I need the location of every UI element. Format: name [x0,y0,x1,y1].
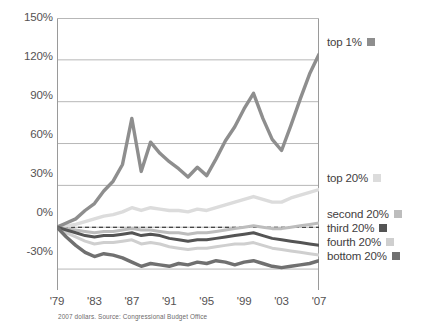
legend-item-label: second 20% [327,208,389,220]
legend-item-label: third 20% [327,222,374,234]
x-axis-labels: '79'83'87'91'95'99'03'07 [57,295,327,311]
legend-color-swatch [392,252,400,260]
series-line-top20 [57,190,319,228]
x-axis-tick-label: '07 [312,295,327,307]
legend-item[interactable]: second 20% [327,208,402,220]
y-axis-tick-label: 120% [3,51,53,62]
y-axis-tick-label: 60% [3,129,53,140]
x-axis-tick-label: '03 [274,295,289,307]
y-axis-tick-label: 90% [3,90,53,101]
legend-item[interactable]: fourth 20% [327,236,394,248]
x-axis-tick-label: '79 [50,295,65,307]
legend-color-swatch [394,210,402,218]
legend-color-swatch [386,238,394,246]
chart-container: 150%120%90%60%30%0%-30% '79'83'87'91'95'… [0,0,435,335]
legend-item[interactable]: bottom 20% [327,250,400,262]
legend-item[interactable]: third 20% [327,222,387,234]
legend-color-swatch [373,174,381,182]
y-axis-tick-label: 150% [3,12,53,23]
legend-item-label: top 1% [327,36,362,48]
legend-item[interactable]: top 20% [327,172,381,184]
series-line-second20 [57,223,319,234]
plot-svg [57,18,319,290]
data-series-group [57,54,319,267]
plot-area [57,18,319,290]
x-axis-tick-label: '95 [199,295,214,307]
legend-item[interactable]: top 1% [327,36,375,48]
x-axis-tick-label: '87 [125,295,140,307]
x-axis-tick-label: '99 [237,295,252,307]
x-axis-tick-label: '83 [87,295,102,307]
y-axis-tick-label: 0% [3,207,53,218]
y-axis-tick-label: 30% [3,168,53,179]
legend-item-label: bottom 20% [327,250,387,262]
source-note: 2007 dollars. Source: Congressional Budg… [58,313,207,320]
legend-color-swatch [379,224,387,232]
legend-item-label: fourth 20% [327,236,381,248]
legend-color-swatch [367,38,375,46]
y-axis-tick-label: -30% [3,246,53,257]
x-axis-tick-label: '91 [162,295,177,307]
y-axis-labels: 150%120%90%60%30%0%-30% [0,0,53,335]
legend-item-label: top 20% [327,172,368,184]
